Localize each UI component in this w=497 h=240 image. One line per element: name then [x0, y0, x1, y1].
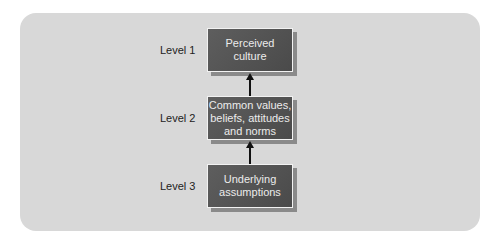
underlying-assumptions-box: Underlying assumptions	[207, 164, 293, 208]
common-values-text: Common values, beliefs, attitudes and no…	[208, 99, 292, 138]
perceived-culture-text: Perceived culture	[208, 37, 292, 63]
perceived-culture-box: Perceived culture	[207, 28, 293, 72]
arrow-up-icon	[249, 79, 251, 96]
common-values-box: Common values, beliefs, attitudes and no…	[207, 96, 293, 140]
level-1-label: Level 1	[160, 44, 195, 56]
underlying-assumptions-text: Underlying assumptions	[208, 173, 292, 199]
level-3-label: Level 3	[160, 180, 195, 192]
level-2-label: Level 2	[160, 112, 195, 124]
arrow-up-icon	[249, 147, 251, 164]
